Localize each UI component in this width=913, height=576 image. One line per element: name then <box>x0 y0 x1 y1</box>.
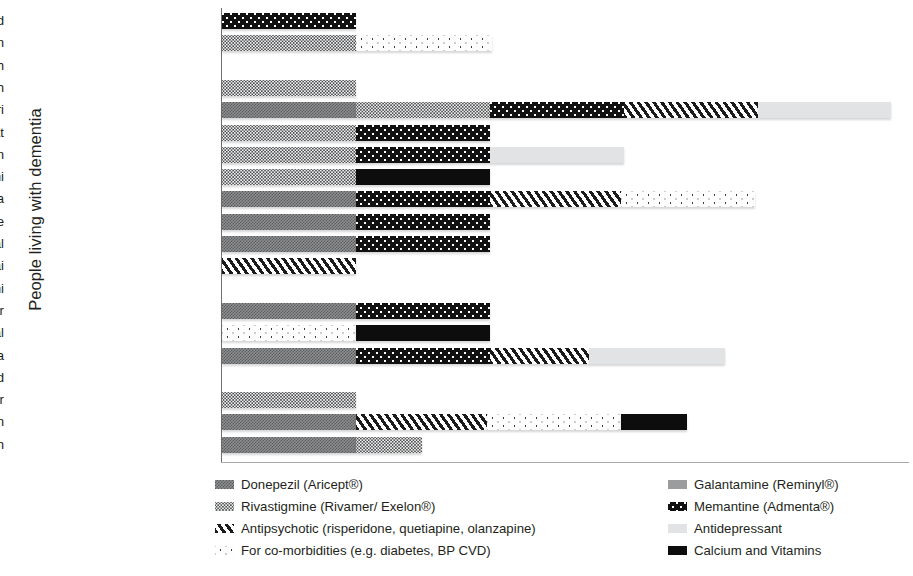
legend-label-rivastigmine: Rivastigmine (Rivamer/ Exelon®) <box>241 496 435 517</box>
chart-row: Karanjit Bhagat <box>222 122 910 144</box>
bar-segment-donepezil <box>222 102 356 118</box>
bar-segment-donepezil <box>222 214 356 230</box>
bar-segment-rivastigmine <box>222 125 356 141</box>
stacked-bar <box>222 236 490 252</box>
row-label-h-p-sadhwani: H.P. Sadhwani <box>0 166 4 188</box>
bar-segment-donepezil <box>222 414 356 430</box>
legend-item-memantine: Memantine (Admenta®) <box>668 496 839 517</box>
chart-row: Anjeli Sood <box>222 10 910 32</box>
bar-segment-memantine <box>222 13 356 29</box>
chart-row: Shanti Hamdari <box>222 99 910 121</box>
chart-row: K.P. Aggarwal <box>222 322 910 344</box>
bar-segment-calcium <box>356 325 490 341</box>
legend-item-rivastigmine: Rivastigmine (Rivamer/ Exelon®) <box>215 496 536 517</box>
legend-label-comorbid: For co-morbidities (e.g. diabetes, BP CV… <box>241 540 491 561</box>
chart-row: Dr Gautam Mukherjee <box>222 211 910 233</box>
bar-segment-comorbid <box>356 35 492 51</box>
stacked-bar <box>222 147 624 163</box>
chart-row: Omar Khan <box>222 32 910 54</box>
legend-swatch-antipsychotic-icon <box>215 524 234 533</box>
bar-segment-comorbid <box>621 191 755 207</box>
bar-segment-comorbid <box>487 414 621 430</box>
bar-segment-rivastigmine <box>222 392 356 408</box>
row-label-c-k-sethi: C.K. Sethi <box>0 278 4 300</box>
legend-swatch-rivastigmine-icon <box>215 502 234 511</box>
plot-area: Anjeli SoodOmar KhanHarinder SinghSurind… <box>222 8 910 463</box>
legend-swatch-memantine-icon <box>668 502 687 511</box>
bar-segment-rivastigmine <box>222 169 356 185</box>
row-label-dr-gautam-mukherjee: Dr Gautam Mukherjee <box>0 211 4 233</box>
bar-segment-antidepressant <box>490 147 624 163</box>
bar-segment-antipsychotic <box>356 414 487 430</box>
bar-segment-comorbid <box>222 325 356 341</box>
chart-row: Tara Jaiswal <box>222 233 910 255</box>
stacked-bar <box>222 102 891 118</box>
legend-label-donepezil: Donepezil (Aricept®) <box>241 474 363 495</box>
row-label-lakshmi-kumari-kochar: Lakshmi Kumari Kochar <box>0 300 4 322</box>
stacked-bar <box>222 258 356 274</box>
legend-item-comorbid: For co-morbidities (e.g. diabetes, BP CV… <box>215 540 536 561</box>
legend-item-donepezil: Donepezil (Aricept®) <box>215 474 536 495</box>
chart-row: Sudhanshu Talwar <box>222 389 910 411</box>
bar-segment-rivastigmine <box>356 437 422 453</box>
bar-segment-antipsychotic <box>222 258 356 274</box>
legend-item-antipsychotic: Antipsychotic (risperidone, quetiapine, … <box>215 518 536 539</box>
row-label-k-p-aggarwal: K.P. Aggarwal <box>0 322 4 344</box>
bar-segment-memantine <box>356 191 490 207</box>
bar-segment-donepezil <box>222 303 356 319</box>
chart-root: People living with dementia Anjeli SoodO… <box>0 0 913 576</box>
chart-row: A.P. Arora <box>222 188 910 210</box>
stacked-bar <box>222 325 490 341</box>
bar-segment-antidepressant <box>758 102 891 118</box>
row-label-harinder-singh: Harinder Singh <box>0 55 4 77</box>
bar-segment-antidepressant <box>589 348 725 364</box>
bar-segment-donepezil <box>222 236 356 252</box>
bar-segment-memantine <box>356 125 490 141</box>
row-label-sheila-tandon: Sheila Tandon <box>0 144 4 166</box>
legend-item-calcium: Calcium and Vitamins <box>668 540 839 561</box>
stacked-bar <box>222 414 687 430</box>
bar-segment-donepezil <box>222 191 356 207</box>
bar-segment-rivastigmine <box>222 80 356 96</box>
row-label-karanjit-bhagat: Karanjit Bhagat <box>0 122 4 144</box>
chart-row: H.P. Sadhwani <box>222 166 910 188</box>
row-label-surinder-dharam-singh: Surinder Dharam Singh <box>0 77 4 99</box>
chart-row: K.T. Menon <box>222 411 910 433</box>
bar-segment-calcium <box>356 169 490 185</box>
row-label-s-t-pillai: S.T. Pillai <box>0 255 4 277</box>
row-label-omar-khan: Omar Khan <box>0 32 4 54</box>
bar-segment-memantine <box>356 236 490 252</box>
row-label-shanti-hamdari: Shanti Hamdari <box>0 99 4 121</box>
stacked-bar <box>222 348 725 364</box>
stacked-bar <box>222 392 356 408</box>
stacked-bar <box>222 169 490 185</box>
legend-column-left: Donepezil (Aricept®)Rivastigmine (Rivame… <box>215 474 536 562</box>
legend-label-calcium: Calcium and Vitamins <box>694 540 821 561</box>
legend-item-galantamine: Galantamine (Reminyl®) <box>668 474 839 495</box>
chart-row: Surinder Dharam Singh <box>222 77 910 99</box>
legend-label-memantine: Memantine (Admenta®) <box>694 496 834 517</box>
stacked-bar <box>222 80 356 96</box>
bar-segment-memantine <box>356 348 490 364</box>
stacked-bar <box>222 214 490 230</box>
stacked-bar <box>222 191 755 207</box>
legend-item-antidepressant: Antidepressant <box>668 518 839 539</box>
legend-swatch-comorbid-icon <box>215 546 234 555</box>
stacked-bar <box>222 13 356 29</box>
legend-column-right: Galantamine (Reminyl®)Memantine (Admenta… <box>668 474 839 562</box>
chart-row: Harinder Singh <box>222 55 910 77</box>
bar-segment-calcium <box>621 414 687 430</box>
legend-swatch-calcium-icon <box>668 546 687 555</box>
bar-segment-antipsychotic <box>490 348 589 364</box>
legend-swatch-galantamine-icon <box>668 480 687 489</box>
bar-segment-rivastigmine <box>222 35 356 51</box>
bar-segment-memantine <box>356 147 490 163</box>
chart-row: Sheila Tandon <box>222 144 910 166</box>
row-label-tara-jaiswal: Tara Jaiswal <box>0 233 4 255</box>
row-label-anjeli-sood: Anjeli Sood <box>0 10 4 32</box>
legend-label-antidepressant: Antidepressant <box>694 518 782 539</box>
row-label-k-t-menon: K.T. Menon <box>0 411 4 433</box>
row-label-a-p-arora: A.P. Arora <box>0 188 4 210</box>
stacked-bar <box>222 303 490 319</box>
bar-segment-antipsychotic <box>624 102 758 118</box>
